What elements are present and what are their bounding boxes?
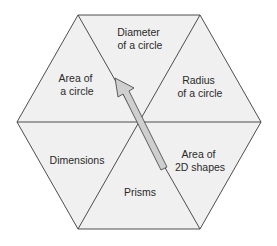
segment-lower-left-label: Dimensions (50, 154, 105, 166)
segment-top-label: Diameter of a circle (117, 26, 163, 51)
segment-upper-left-label: Area of a circle (59, 72, 96, 97)
hexagon-diagram: Diameter of a circle Radius of a circle … (0, 0, 277, 246)
segment-upper-right-label: Radius of a circle (178, 74, 223, 99)
segment-lower-right-label: Area of 2D shapes (175, 148, 225, 173)
segment-bottom-label: Prisms (124, 186, 156, 198)
